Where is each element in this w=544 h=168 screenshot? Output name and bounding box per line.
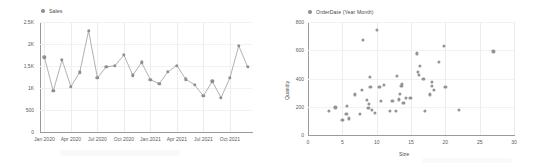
scatter-y-tick-label: 600 [274, 47, 304, 53]
scatter-y-tick-label: 200 [274, 104, 304, 110]
scatter-y-tick-label: 0 [274, 132, 304, 138]
scatter-x-tick-label: 30 [511, 139, 517, 145]
scatter-x-axis-title: Size [399, 151, 409, 157]
scatter-y-axis-title: Quantity [284, 81, 290, 100]
gridline-vertical [480, 22, 481, 135]
gridline-vertical [514, 22, 515, 135]
scatter-y-tick-label: 800 [274, 19, 304, 25]
scatter-x-tick-label: 5 [341, 139, 344, 145]
scatter-x-tick-label: 20 [443, 139, 449, 145]
dashboard-canvas: Sales 05001K1.5K2K2.5KJan 2020Apr 2020Ju… [0, 0, 544, 168]
scatter-x-tick-label: 15 [408, 139, 414, 145]
gridline-vertical [377, 22, 378, 135]
gridline-vertical [445, 22, 446, 135]
scatter-x-tick-label: 10 [374, 139, 380, 145]
scatter-x-tick-label: 0 [307, 139, 310, 145]
scatter-chart-legend[interactable]: OrderDate (Year Month) [308, 9, 374, 15]
scatter-y-tick-label: 400 [274, 76, 304, 82]
scatter-x-axis [308, 135, 515, 136]
scatter-x-tick-label: 25 [477, 139, 483, 145]
legend-label-orderdate: OrderDate (Year Month) [316, 9, 374, 15]
sales-line-chart: Sales 05001K1.5K2K2.5KJan 2020Apr 2020Ju… [0, 0, 272, 168]
quantity-size-scatter-chart: OrderDate (Year Month) Quantity Size 020… [272, 0, 544, 168]
scan-artifact [422, 158, 512, 163]
sales-series-line [0, 0, 272, 168]
legend-marker-icon [308, 10, 312, 14]
gridline-vertical [411, 22, 412, 135]
